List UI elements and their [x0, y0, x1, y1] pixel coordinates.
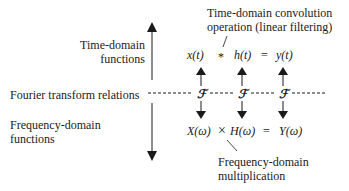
multiplication-leader-line — [227, 140, 237, 151]
small-down-arrow-icon — [196, 101, 288, 119]
frequency-domain-down-arrow-icon — [147, 103, 157, 161]
time-domain-up-arrow-icon — [147, 22, 157, 80]
diagram-graphics — [0, 0, 349, 191]
convolution-leader-line — [223, 36, 227, 47]
small-up-arrow-icon — [196, 67, 288, 86]
